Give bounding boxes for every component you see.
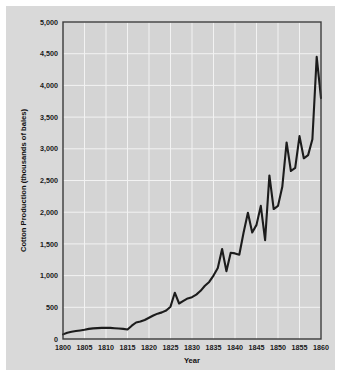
chart-figure: 05001,0001,5002,0002,5003,0003,5004,0004… [6,6,335,370]
y-axis-tick-label: 1,500 [40,240,58,249]
x-axis-tick-label: 1835 [206,343,222,352]
y-axis-tick-label: 1,000 [40,271,58,280]
y-axis-tick-label: 500 [46,303,58,312]
y-axis-tick-label: 2,500 [40,176,58,185]
x-axis-tick-label: 1800 [55,343,71,352]
y-axis-tick-label: 3,500 [40,113,58,122]
plot-area-wrapper: 05001,0001,5002,0002,5003,0003,5004,0004… [6,6,335,370]
x-axis-title: Year [184,356,200,365]
y-axis-tick-labels: 05001,0001,5002,0002,5003,0003,5004,0004… [40,18,58,344]
x-axis-tick-label: 1860 [313,343,329,352]
y-axis-tick-label: 2,000 [40,208,58,217]
x-axis-tick-label: 1855 [292,343,308,352]
y-axis-tick-label: 3,000 [40,144,58,153]
x-axis-tick-label: 1815 [120,343,136,352]
cotton-production-line-chart: 05001,0001,5002,0002,5003,0003,5004,0004… [6,6,335,370]
x-axis-tick-label: 1840 [227,343,243,352]
x-axis-tick-label: 1805 [77,343,93,352]
y-axis-tick-label: 5,000 [40,18,58,27]
x-axis-tick-label: 1830 [184,343,200,352]
x-axis-tick-label: 1850 [270,343,286,352]
x-axis-tick-label: 1825 [163,343,179,352]
y-axis-tick-label: 4,500 [40,49,58,58]
x-axis-tick-label: 1820 [141,343,157,352]
y-axis-tick-label: 4,000 [40,81,58,90]
y-axis-title: Cotton Production (thousands of bales) [19,109,28,252]
x-axis-tick-labels: 1800180518101815182018251830183518401845… [55,343,329,352]
x-axis-tick-label: 1845 [249,343,265,352]
x-axis-tick-label: 1810 [98,343,114,352]
